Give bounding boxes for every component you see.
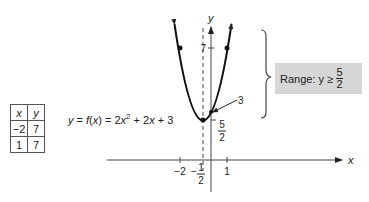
range-label: Range: y ≥ [280, 73, 333, 85]
range-label-box: Range: y ≥ 5 2 [275, 63, 362, 94]
vertex-y-den: 2 [219, 132, 225, 143]
vertex-y-num: 5 [219, 119, 225, 130]
range-brace [261, 30, 271, 118]
vertex-x-den: 2 [198, 175, 204, 186]
y-intercept-point [209, 110, 213, 114]
y-axis-label: y [207, 12, 215, 24]
parabola-graph: x y −2 1 − 1 2 7 5 2 3 [0, 0, 369, 202]
x-tick-label: 1 [224, 166, 230, 177]
y-tick-label: 7 [200, 43, 206, 54]
vertex-x-sign: − [191, 166, 197, 177]
point-neg2-7 [178, 46, 183, 51]
x-tick-label: −2 [174, 166, 186, 177]
vertex-point [201, 118, 206, 123]
point-1-7 [225, 46, 230, 51]
y-intercept-label: 3 [238, 95, 244, 106]
vertex-x-num: 1 [198, 162, 204, 173]
range-fraction: 5 2 [336, 67, 343, 90]
x-axis-label: x [347, 154, 354, 166]
y-intercept-arrow [213, 100, 237, 112]
